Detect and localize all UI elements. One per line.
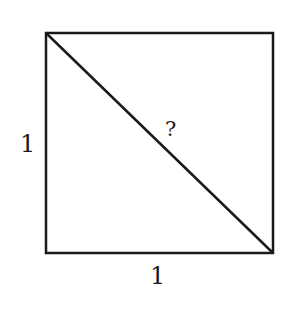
diagonal-label: ?	[165, 117, 176, 141]
left-side-label: 1	[20, 130, 35, 158]
bottom-side-label: 1	[150, 262, 165, 290]
diagonal-line	[46, 33, 273, 253]
square-diagram: 1 1 ?	[0, 0, 293, 309]
